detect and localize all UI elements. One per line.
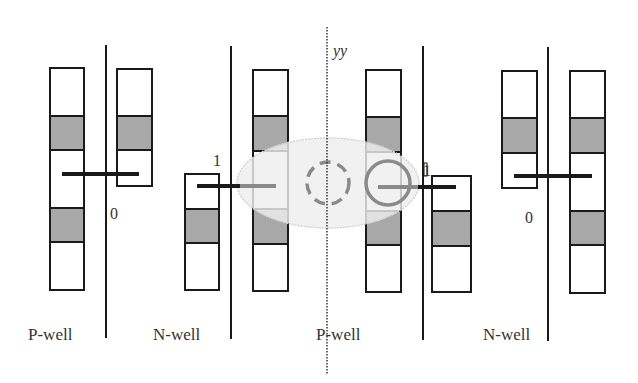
column-n-well-right-top-short [502,71,537,188]
highlight-ellipse [237,138,419,228]
node-label-left-zero: 0 [110,206,118,222]
well-label-p-well-2: P-well [316,326,360,343]
column-p-well-left-tall [50,68,84,290]
node-label-right-zero: 0 [525,210,533,226]
node-label-right-one: 1 [423,163,431,179]
well-label-n-well-2: N-well [483,326,530,343]
column-n-well-right-short [432,176,471,292]
axis-label-yy: yy [333,43,347,59]
node-label-left-one: 1 [213,153,221,169]
column-p-well-left-short [117,69,152,186]
column-n-well-left-short [185,174,219,290]
well-label-n-well-1: N-well [153,326,200,343]
column-n-well-right-tall [570,71,605,293]
well-label-p-well-1: P-well [28,326,72,343]
